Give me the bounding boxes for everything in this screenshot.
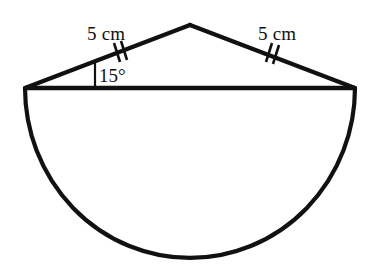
- figure-canvas: 5 cm 5 cm 15°: [0, 0, 369, 266]
- right-side-length-label: 5 cm: [258, 23, 296, 44]
- semicircle-arc: [25, 88, 355, 258]
- geometry-figure: 5 cm 5 cm 15°: [0, 0, 369, 266]
- base-angle-label: 15°: [99, 65, 126, 86]
- left-side-length-label: 5 cm: [87, 23, 125, 44]
- tick-marks-right: [266, 43, 279, 64]
